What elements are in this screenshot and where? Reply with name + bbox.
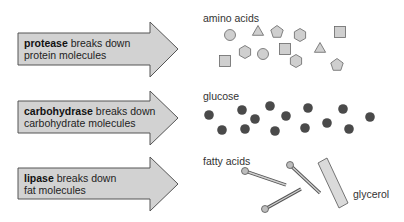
glucose-molecule (270, 126, 280, 136)
glucose-molecule (237, 105, 247, 115)
amino-acid-triangle (252, 26, 263, 36)
glucose-molecule (344, 124, 354, 134)
amino-acids-label: amino acids (203, 12, 259, 24)
carbohydrase-label: carbohydrase breaks down carbohydrate mo… (24, 105, 155, 129)
substrate-text: carbohydrate molecules (24, 117, 135, 129)
fatty-acid-molecule (287, 162, 321, 194)
fatty-acids-group (242, 162, 321, 213)
amino-acid-square (280, 44, 291, 55)
enzyme-name: protease (24, 37, 68, 49)
amino-acid-square (220, 56, 231, 67)
glucose-molecule (300, 123, 310, 133)
fatty-acid-molecule (262, 189, 302, 213)
fatty-acid-molecule (242, 168, 287, 186)
fatty-acids-label: fatty acids (203, 155, 250, 167)
glucose-molecule (365, 112, 375, 122)
amino-acid-hexagon (290, 55, 301, 68)
enzyme-name: carbohydrase (24, 105, 93, 117)
amino-acid-circle (225, 30, 236, 41)
amino-acid-hexagon (239, 46, 250, 59)
glucose-molecule (204, 110, 214, 120)
amino-acid-circle (258, 49, 269, 60)
glucose-molecule (265, 101, 275, 111)
amino-acids-group (220, 26, 346, 71)
amino-acid-triangle (314, 43, 325, 53)
protease-label: protease breaks down protein molecules (24, 37, 130, 61)
amino-acid-square (335, 27, 346, 38)
glucose-molecule (217, 125, 227, 135)
glucose-molecule (338, 104, 348, 114)
glucose-label: glucose (203, 90, 239, 102)
substrate-text: protein molecules (24, 49, 106, 61)
substrate-text: fat molecules (24, 184, 86, 196)
amino-acid-pentagon (271, 26, 283, 38)
glycerol-molecule (318, 158, 348, 208)
enzyme-name: lipase (24, 172, 54, 184)
amino-acid-pentagon (331, 59, 343, 71)
glucose-molecule (240, 124, 250, 134)
glucose-molecule (303, 103, 313, 113)
glucose-molecule (322, 118, 332, 128)
glucose-molecule (281, 111, 291, 121)
glycerol-label: glycerol (353, 188, 389, 200)
amino-acid-hexagon (294, 29, 305, 42)
lipase-label: lipase breaks down fat molecules (24, 172, 116, 196)
glucose-group (204, 101, 375, 136)
glucose-molecule (250, 114, 260, 124)
